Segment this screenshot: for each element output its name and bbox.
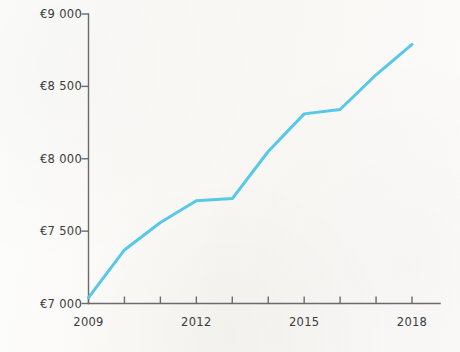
x-axis-tick-labels: 2009201220152018 [0,0,460,352]
x-tick-label: 2012 [181,315,211,329]
line-chart: €7 000€7 500€8 000€8 500€9 000 200920122… [0,0,460,352]
x-tick-label: 2018 [397,315,427,329]
x-tick-label: 2009 [73,315,103,329]
x-tick-label: 2015 [289,315,319,329]
